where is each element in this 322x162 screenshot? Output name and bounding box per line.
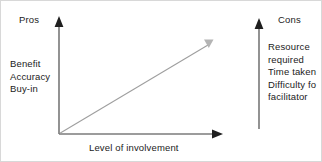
pros-axis-arrow — [55, 16, 64, 134]
diagram-canvas: Pros Cons Benefit Accuracy Buy-in Resour… — [0, 0, 322, 162]
cons-item: required — [268, 54, 316, 67]
cons-item: Resource — [268, 41, 316, 54]
cons-item: Difficulty fo — [268, 79, 316, 92]
x-axis-arrow — [59, 129, 223, 138]
cons-item: facilitator — [268, 91, 316, 104]
x-axis-label: Level of involvement — [89, 142, 179, 155]
cons-axis-arrow — [255, 18, 264, 129]
pros-item: Buy-in — [10, 83, 50, 96]
cons-item-list: Resource required Time taken Difficulty … — [268, 41, 316, 104]
cons-item: Time taken — [268, 66, 316, 79]
pros-item: Benefit — [10, 58, 50, 71]
pros-heading: Pros — [19, 14, 39, 27]
trend-line — [60, 40, 214, 134]
pros-item: Accuracy — [10, 71, 50, 84]
pros-item-list: Benefit Accuracy Buy-in — [10, 58, 50, 96]
cons-heading: Cons — [278, 14, 301, 27]
